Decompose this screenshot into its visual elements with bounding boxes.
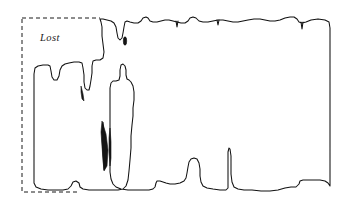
upper-sliver-blob bbox=[123, 37, 126, 45]
lost-region-label: Lost bbox=[39, 32, 60, 43]
left-streak-blob bbox=[81, 86, 84, 101]
right-dash-mask bbox=[325, 13, 349, 198]
lost-region-boundary bbox=[22, 18, 330, 192]
map-canvas: Lost bbox=[0, 0, 349, 210]
map-figure: Lost bbox=[0, 0, 349, 210]
wall-outline-path bbox=[34, 17, 330, 191]
right-streak-blob bbox=[109, 128, 111, 166]
